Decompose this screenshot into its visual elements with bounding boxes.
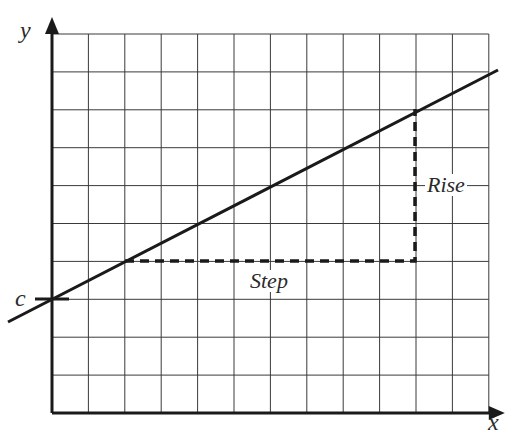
rise-label: Rise — [425, 174, 467, 196]
grid — [52, 34, 489, 413]
diagram-canvas — [0, 0, 524, 439]
x-axis-label: x — [488, 410, 499, 434]
gradient-diagram: y x c Rise Step — [0, 0, 524, 439]
y-axis-label: y — [20, 18, 31, 42]
intercept-label: c — [15, 286, 26, 310]
y-axis-arrow-icon — [45, 17, 59, 34]
step-label: Step — [248, 270, 290, 292]
